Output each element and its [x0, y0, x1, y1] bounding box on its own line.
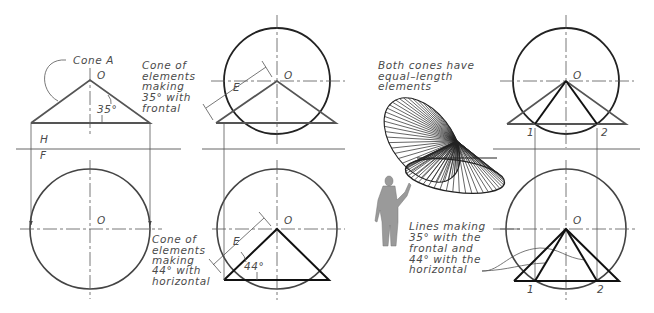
callout-leader [45, 60, 66, 101]
view2-bottom-apex: O [284, 214, 293, 226]
label-f: F [40, 149, 47, 161]
view2-angle: 44° [244, 260, 264, 272]
svg-text:horizontal: horizontal [152, 275, 210, 287]
svg-text:elements: elements [378, 80, 432, 92]
svg-text:frontal: frontal [142, 102, 181, 114]
view3-bottom-apex: O [573, 214, 582, 226]
view2-bottom-e: E [233, 235, 240, 247]
note-leader [482, 248, 585, 271]
view1-note: Cone of elements making 35° with frontal [142, 59, 196, 114]
view2-top-e: E [233, 81, 240, 93]
label-h: H [40, 133, 49, 145]
view3-top-apex: O [573, 69, 582, 81]
view3-point1: 1 [527, 126, 534, 138]
view3-top [500, 15, 634, 280]
pictorial-note: Both cones have equal–length elements [378, 59, 475, 92]
view1-bottom-circle [20, 160, 162, 299]
angle-label: 35° [97, 103, 117, 115]
apex-label: O [97, 69, 106, 81]
lines-note: Lines making 35° with the frontal and 44… [409, 220, 486, 275]
view2-note: Cone of elements making 44° with horizon… [152, 233, 210, 287]
view2-top [203, 15, 345, 158]
bottom-apex-label: O [97, 214, 106, 226]
view3-bottom [500, 160, 636, 300]
view2-bottom [209, 158, 345, 300]
cone-a-label: Cone A [73, 54, 114, 66]
human-figure [375, 176, 411, 246]
view3-bottom-point1: 1 [527, 283, 534, 295]
view3-point2: 2 [601, 126, 608, 138]
cone-intersection-diagram: H F Cone A O 35° Cone of elements making… [0, 0, 654, 313]
view1-top-cone [31, 68, 150, 225]
svg-text:horizontal: horizontal [409, 263, 467, 275]
view2-top-apex: O [284, 69, 293, 81]
view3-bottom-point2: 2 [597, 283, 604, 295]
